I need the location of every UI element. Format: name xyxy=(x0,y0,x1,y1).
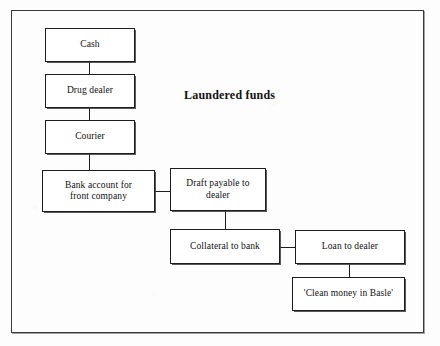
connector-cash-to-drug-dealer xyxy=(89,62,90,74)
node-loan: Loan to dealer xyxy=(295,230,405,264)
connector-draft-to-collateral xyxy=(225,211,226,229)
node-collateral: Collateral to bank xyxy=(170,229,280,264)
node-label-courier: Courier xyxy=(72,131,108,143)
node-label-bank-account: Bank account for front company xyxy=(62,180,135,203)
node-cash: Cash xyxy=(45,28,135,62)
connector-drug-dealer-to-courier xyxy=(89,108,90,120)
node-label-loan: Loan to dealer xyxy=(319,241,381,253)
node-draft: Draft payable to dealer xyxy=(170,168,266,211)
node-label-drug-dealer: Drug dealer xyxy=(64,85,116,97)
node-label-draft: Draft payable to dealer xyxy=(183,178,252,201)
node-bank-account: Bank account for front company xyxy=(42,170,155,212)
node-label-collateral: Collateral to bank xyxy=(187,241,263,253)
connector-collateral-to-loan xyxy=(280,247,295,248)
connector-bank-account-to-draft xyxy=(155,191,170,192)
node-clean-money: 'Clean money in Basle' xyxy=(292,277,405,311)
node-courier: Courier xyxy=(45,120,135,154)
diagram-page: Laundered funds CashDrug dealerCourierBa… xyxy=(0,0,440,346)
connector-courier-to-bank-account xyxy=(89,154,90,170)
connector-loan-to-clean-money xyxy=(349,264,350,277)
node-label-cash: Cash xyxy=(77,39,102,51)
diagram-title: Laundered funds xyxy=(184,88,275,103)
node-drug-dealer: Drug dealer xyxy=(45,74,135,108)
node-label-clean-money: 'Clean money in Basle' xyxy=(301,288,396,300)
